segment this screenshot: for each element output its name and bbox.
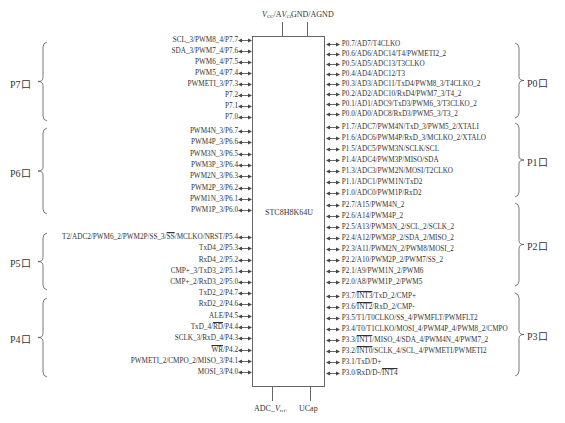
bidirectional-arrow-icon bbox=[326, 369, 340, 377]
pin-p0-7: P0.7/AD7/T4CLKO bbox=[326, 40, 400, 49]
bidirectional-arrow-icon bbox=[326, 40, 340, 48]
bidirectional-arrow-icon bbox=[326, 325, 340, 333]
bidirectional-arrow-icon bbox=[238, 244, 252, 252]
pin-label: P1.4/ADC4/PWM3P/MISO/SDA bbox=[342, 156, 439, 164]
port-p6-label: P6口 bbox=[10, 165, 31, 180]
pin-p2-4: P2.4/A12/PWM3P_2/SDA_2/MISO_2 bbox=[326, 234, 454, 243]
pin-label: P3.6/INT2/RxD_2/CMP- bbox=[342, 303, 415, 311]
bidirectional-arrow-icon bbox=[326, 156, 340, 164]
vcc-pin-line bbox=[282, 22, 283, 36]
pin-label: SCLK_3/RxD_4/P4.3 bbox=[175, 334, 238, 342]
pin-label: P1.1/ADC1/PWM1N/TxD2 bbox=[342, 178, 422, 186]
pin-p6-1: PWM1N_3/P6.1 bbox=[190, 195, 252, 204]
pin-p7-5: PWM6_4/P7.5 bbox=[195, 58, 252, 67]
port-p1-label: P1口 bbox=[527, 154, 548, 169]
pin-label: TxD2_2/P4.7 bbox=[199, 289, 238, 297]
bidirectional-arrow-icon bbox=[238, 184, 252, 192]
pin-p7-4: PWM5_4/P7.4 bbox=[195, 69, 252, 78]
bidirectional-arrow-icon bbox=[238, 233, 252, 241]
bidirectional-arrow-icon bbox=[238, 172, 252, 180]
pin-label: P1.5/ADC5/PWM3N/SCLK/SCL bbox=[342, 145, 439, 153]
bidirectional-arrow-icon bbox=[326, 336, 340, 344]
pin-label: WR/P4.2 bbox=[211, 346, 238, 354]
pin-label: TxD4_2/P5.3 bbox=[199, 244, 238, 252]
pin-p2-7: P2.7/A15/PWM4N_2 bbox=[326, 201, 404, 210]
pin-label: P7.1 bbox=[225, 102, 238, 110]
bidirectional-arrow-icon bbox=[326, 80, 340, 88]
pin-p0-3: P0.3/AD3/ADC11/TxD4/PWM8_3/T4CLKO_2 bbox=[326, 80, 480, 89]
pin-label: P2.4/A12/PWM3P_2/SDA_2/MISO_2 bbox=[342, 234, 454, 242]
chip-part-number: STC8H8K64U bbox=[254, 208, 324, 217]
port-p2-brace bbox=[513, 203, 525, 286]
bidirectional-arrow-icon bbox=[238, 113, 252, 121]
pin-p3-6: P3.6/INT2/RxD_2/CMP- bbox=[326, 303, 415, 312]
bidirectional-arrow-icon bbox=[326, 90, 340, 98]
bidirectional-arrow-icon bbox=[238, 58, 252, 66]
pin-p0-4: P0.4/AD4/ADC12/T3 bbox=[326, 70, 405, 79]
bidirectional-arrow-icon bbox=[238, 47, 252, 55]
bidirectional-arrow-icon bbox=[326, 358, 340, 366]
pin-label: SCL_3/PWM8_4/P7.7 bbox=[173, 36, 238, 44]
pin-p3-2: P3.2/INT0/SCLK_4/SCL_4/PWMETI/PWMETI2 bbox=[326, 347, 487, 356]
pin-p0-6: P0.6/AD6/ADC14/T4/PWMETI2_2 bbox=[326, 50, 446, 59]
pin-p7-2: P7.2 bbox=[225, 91, 252, 100]
bidirectional-arrow-icon bbox=[326, 314, 340, 322]
bidirectional-arrow-icon bbox=[238, 69, 252, 77]
pin-p4-2: WR/P4.2 bbox=[211, 346, 252, 355]
port-p4-label: P4口 bbox=[10, 331, 31, 346]
pin-label: P2.0/A8/PWM1P_2/PWM5 bbox=[342, 278, 422, 286]
gnd-pin-line bbox=[307, 22, 308, 36]
pin-label: P1.6/ADC6/PWM4P/RxD_3/MCLKO_2/XTALO bbox=[342, 134, 486, 142]
bidirectional-arrow-icon bbox=[238, 36, 252, 44]
pin-p6-5: PWM3N_3/P6.5 bbox=[190, 150, 252, 159]
pin-label: PWM3P_3/P6.4 bbox=[191, 161, 238, 169]
pin-label: PWM2P_3/P6.2 bbox=[191, 184, 238, 192]
bidirectional-arrow-icon bbox=[238, 127, 252, 135]
pin-label: P2.7/A15/PWM4N_2 bbox=[342, 201, 405, 209]
pin-p5-3: TxD4_2/P5.3 bbox=[199, 244, 252, 253]
pin-p7-7: SCL_3/PWM8_4/P7.7 bbox=[173, 36, 252, 45]
port-p3-brace bbox=[513, 293, 525, 376]
pin-label: P3.7/INT3/TxD_2/CMP+ bbox=[342, 292, 416, 300]
bidirectional-arrow-icon bbox=[238, 150, 252, 158]
pin-label: P2.1/A9/PWM1N_2/PWM6 bbox=[342, 267, 424, 275]
pin-label: PWM6_4/P7.5 bbox=[195, 58, 238, 66]
pin-p6-7: PWM4N_3/P6.7 bbox=[190, 127, 252, 136]
bidirectional-arrow-icon bbox=[326, 145, 340, 153]
bidirectional-arrow-icon bbox=[238, 300, 252, 308]
pin-p1-0: P1.0/ADC0/PWM1P/RxD2 bbox=[326, 189, 421, 198]
pin-label: RxD2_2/P4.6 bbox=[199, 300, 238, 308]
port-p0-label: P0口 bbox=[527, 75, 548, 90]
pin-label: PWM4N_3/P6.7 bbox=[190, 127, 238, 135]
pin-p1-3: P1.3/ADC3/PWM2N/MOSI/T2CLKO bbox=[326, 167, 453, 176]
port-p4-brace bbox=[37, 298, 49, 377]
pin-label: PWM4P_3/P6.6 bbox=[191, 138, 238, 146]
pin-p0-2: P0.2/AD2/ADC10/RxD4/PWM7_3/T4_2 bbox=[326, 90, 461, 99]
port-p5-brace bbox=[37, 233, 49, 290]
pin-label: P0.7/AD7/T4CLKO bbox=[342, 40, 401, 48]
pin-p1-6: P1.6/ADC6/PWM4P/RxD_3/MCLKO_2/XTALO bbox=[326, 134, 486, 143]
pin-p5-2: RxD4_2/P5.2 bbox=[199, 256, 252, 265]
pin-label: P0.4/AD4/ADC12/T3 bbox=[342, 70, 405, 78]
bidirectional-arrow-icon bbox=[238, 161, 252, 169]
bidirectional-arrow-icon bbox=[326, 189, 340, 197]
gnd-agnd-label: GND/AGND bbox=[291, 10, 334, 19]
port-p3-label: P3口 bbox=[527, 328, 548, 343]
ucap-label: UCap bbox=[299, 404, 318, 413]
pin-label: P1.3/ADC3/PWM2N/MOSI/T2CLKO bbox=[342, 167, 453, 175]
pin-p4-1: PWMETI_2/CMPO_2/MISO_3/P4.1 bbox=[131, 357, 252, 366]
pin-p1-7: P1.7/ADC7/PWM4N/TxD_3/PWM5_2/XTALI bbox=[326, 123, 479, 132]
bidirectional-arrow-icon bbox=[326, 267, 340, 275]
bidirectional-arrow-icon bbox=[326, 60, 340, 68]
pin-p4-3: SCLK_3/RxD_4/P4.3 bbox=[175, 334, 252, 343]
bidirectional-arrow-icon bbox=[326, 256, 340, 264]
pin-p7-1: P7.1 bbox=[225, 102, 252, 111]
bidirectional-arrow-icon bbox=[326, 212, 340, 220]
pin-label: PWM3N_3/P6.5 bbox=[190, 150, 238, 158]
pin-label: P0.1/AD1/ADC9/TxD3/PWM6_3/T3CLKO_2 bbox=[342, 100, 477, 108]
pin-p1-1: P1.1/ADC1/PWM1N/TxD2 bbox=[326, 178, 422, 187]
bidirectional-arrow-icon bbox=[326, 167, 340, 175]
pin-p4-6: RxD2_2/P4.6 bbox=[199, 300, 252, 309]
pin-p3-1: P3.1/TxD/D+ bbox=[326, 358, 381, 367]
pin-label: PWM1N_3/P6.1 bbox=[190, 195, 238, 203]
